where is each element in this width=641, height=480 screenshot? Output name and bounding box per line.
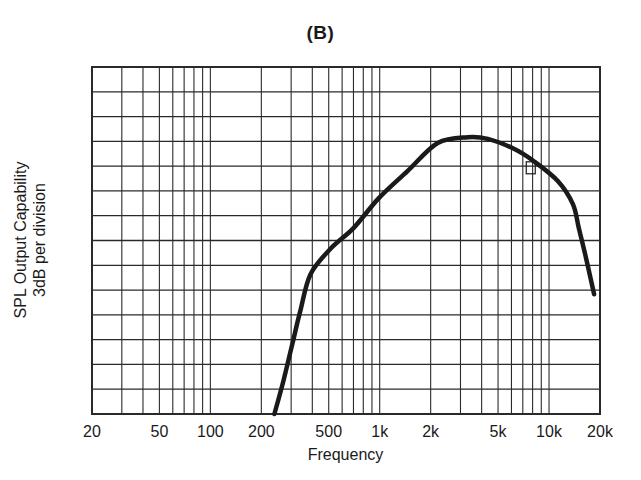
- x-tick-label: 20: [83, 423, 101, 441]
- x-tick-label: 10k: [536, 423, 562, 441]
- x-axis-label: Frequency: [0, 446, 641, 464]
- x-tick-label: 5k: [490, 423, 507, 441]
- y-axis-label-line-2: 3dB per division: [30, 162, 49, 319]
- y-axis-label: SPL Output Capability 3dB per division: [11, 162, 49, 319]
- x-tick-label: 100: [197, 423, 224, 441]
- x-tick-label: 500: [315, 423, 342, 441]
- x-tick-label: 2k: [422, 423, 439, 441]
- y-axis-label-line-1: SPL Output Capability: [11, 162, 30, 319]
- plot-area: [0, 0, 641, 480]
- grid-lines: [92, 67, 600, 414]
- x-tick-label: 20k: [587, 423, 613, 441]
- x-tick-label: 200: [248, 423, 275, 441]
- x-tick-label: 50: [150, 423, 168, 441]
- x-tick-label: 1k: [371, 423, 388, 441]
- spl-curve: [274, 137, 594, 414]
